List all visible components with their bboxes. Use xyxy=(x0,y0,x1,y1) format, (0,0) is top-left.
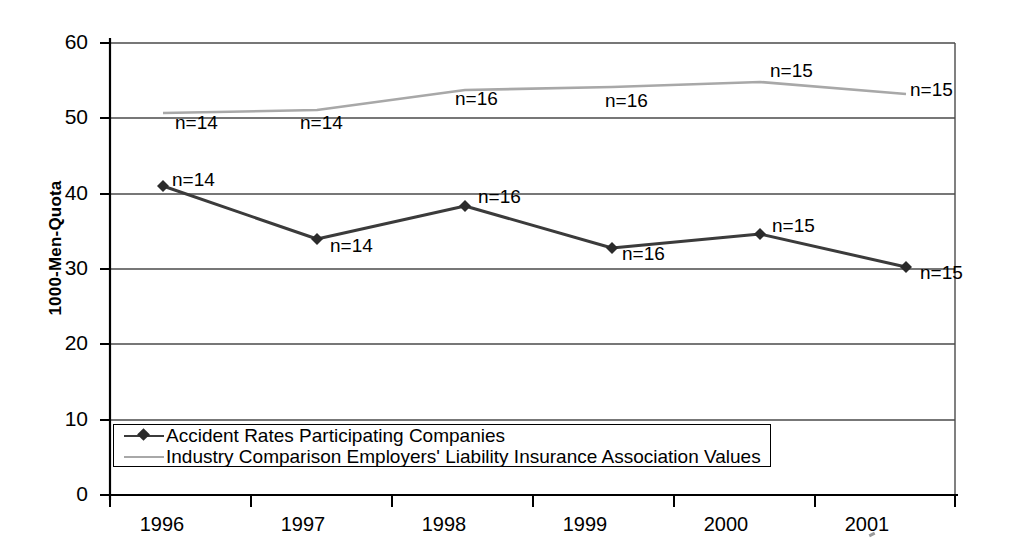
x-tick-label-1997: 1997 xyxy=(261,513,345,536)
legend-item-accident-rates[interactable]: Accident Rates Participating Companies xyxy=(122,425,505,446)
annotation-industry-2000: n=15 xyxy=(770,60,813,82)
accident-rate-line-chart: 1000-Men-Quota 60 50 40 30 20 10 0 1996 … xyxy=(0,0,1012,552)
annotation-accident-1998: n=16 xyxy=(478,186,521,208)
x-tick-label-2001: 2001 xyxy=(825,513,909,536)
gridlines xyxy=(110,43,955,420)
y-tick-label-60: 60 xyxy=(36,30,88,54)
plot-area xyxy=(0,0,1012,552)
y-tick-label-10: 10 xyxy=(36,407,88,431)
y-tick-label-40: 40 xyxy=(36,181,88,205)
x-tick-label-1998: 1998 xyxy=(402,513,486,536)
chart-legend: Accident Rates Participating Companies I… xyxy=(113,424,771,467)
legend-label-industry-comparison: Industry Comparison Employers' Liability… xyxy=(166,447,761,467)
annotation-accident-1997: n=14 xyxy=(330,235,373,257)
annotation-industry-1999: n=16 xyxy=(605,90,648,112)
x-tick-label-1999: 1999 xyxy=(543,513,627,536)
annotation-industry-1998: n=16 xyxy=(455,88,498,110)
x-axis-ticks xyxy=(110,495,955,507)
legend-label-accident-rates: Accident Rates Participating Companies xyxy=(166,426,505,446)
legend-marker-diamond-icon xyxy=(122,426,166,446)
annotation-accident-2000: n=15 xyxy=(772,215,815,237)
annotation-industry-2001: n=15 xyxy=(910,79,953,101)
y-tick-label-30: 30 xyxy=(36,256,88,280)
legend-line-gray-icon xyxy=(122,447,166,467)
annotation-accident-1996: n=14 xyxy=(172,169,215,191)
y-tick-label-0: 0 xyxy=(36,482,88,506)
series-line-industry-comparison xyxy=(163,82,906,113)
legend-item-industry-comparison[interactable]: Industry Comparison Employers' Liability… xyxy=(122,446,761,467)
x-tick-label-1996: 1996 xyxy=(120,513,204,536)
y-tick-label-50: 50 xyxy=(36,105,88,129)
y-axis-ticks xyxy=(100,43,110,495)
annotation-industry-1997: n=14 xyxy=(300,112,343,134)
y-tick-label-20: 20 xyxy=(36,331,88,355)
y-axis-title: 1000-Men-Quota xyxy=(46,148,66,348)
annotation-industry-1996: n=14 xyxy=(175,112,218,134)
annotation-accident-2001: n=15 xyxy=(920,262,963,284)
annotation-accident-1999: n=16 xyxy=(622,243,665,265)
x-tick-label-2000: 2000 xyxy=(684,513,768,536)
